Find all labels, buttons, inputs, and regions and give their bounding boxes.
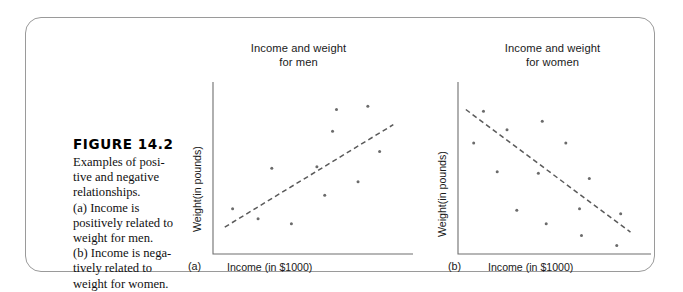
y-axis-label-men: Weight(in pounds) [191,146,203,232]
data-point [496,170,499,173]
caption-line: Examples of posi- [73,155,191,170]
panel-tag-a: (a) [188,260,201,272]
data-point [323,194,326,197]
x-axis-label-men: Income (in $1000) [227,261,312,273]
data-point [506,128,509,131]
caption-line: (b) Income is nega- [73,246,191,261]
data-point [545,222,548,225]
data-point [541,120,544,123]
data-point [619,212,622,215]
axis-lines [458,82,651,254]
data-point [378,150,381,153]
data-point [515,209,518,212]
data-point [472,142,475,145]
scatter-plot-women [426,42,661,267]
figure-frame: FIGURE 14.2 Examples of posi- tive and n… [25,17,655,272]
trend-line [225,125,394,227]
scatter-panel-women: Income and weight for women Income (in $… [426,42,661,267]
data-point [290,222,293,225]
data-point [564,142,567,145]
data-point [357,180,360,183]
data-point [588,177,591,180]
caption-line: (a) Income is [73,201,191,216]
scatter-panel-men: Income and weight for men Income (in $10… [181,42,416,267]
data-point [578,207,581,210]
data-point [335,108,338,111]
trend-line [466,110,631,233]
data-point [231,207,234,210]
figure-caption: FIGURE 14.2 Examples of posi- tive and n… [73,136,191,292]
trend-line-group-men [225,125,394,227]
trend-line-group-women [466,110,631,233]
figure-number-label: FIGURE 14.2 [73,136,191,152]
data-point [270,167,273,170]
caption-line: tively related to [73,261,191,276]
y-axis-label-women: Weight(in pounds) [436,151,448,237]
caption-line: tive and negative [73,170,191,185]
plot-axes-women [458,82,651,254]
caption-line: positively related to [73,216,191,231]
data-points-group-men [231,105,381,226]
data-point [615,244,618,247]
scatter-plot-men [181,42,416,267]
data-point [366,105,369,108]
data-point [537,172,540,175]
caption-line: weight for women. [73,277,191,292]
data-point [331,130,334,133]
plot-axes-men [213,82,413,254]
data-point [482,110,485,113]
x-axis-label-women: Income (in $1000) [488,261,573,273]
caption-line: relationships. [73,185,191,200]
data-point [315,165,318,168]
axis-lines [213,82,413,254]
panel-tag-b: (b) [448,260,461,272]
data-point [580,234,583,237]
data-point [257,217,260,220]
figure-caption-text: Examples of posi- tive and negative rela… [73,155,191,292]
caption-line: weight for men. [73,231,191,246]
